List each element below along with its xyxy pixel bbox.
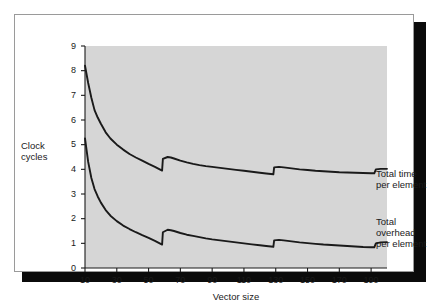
x-tick-label: 70 [168, 276, 192, 285]
series-label-line: overhead [376, 227, 442, 238]
x-tick-label: 10 [73, 276, 97, 285]
figure-container: 0123456789 1030507090110130150170190 Clo… [0, 0, 448, 306]
x-tick-label: 170 [327, 276, 351, 285]
figure-card: 0123456789 1030507090110130150170190 Clo… [14, 14, 414, 272]
series-label-line: Total [376, 216, 442, 227]
y-tick-label: 6 [60, 116, 76, 125]
y-tick-label: 8 [60, 66, 76, 75]
x-tick-label: 130 [264, 276, 288, 285]
axis-ticks [81, 46, 371, 272]
x-tick-label: 30 [105, 276, 129, 285]
series-label-line: Total time [376, 168, 442, 179]
series-label-total-time: Total timeper element [376, 168, 442, 190]
y-tick-label: 3 [60, 190, 76, 199]
y-tick-label: 7 [60, 91, 76, 100]
y-tick-label: 0 [60, 264, 76, 273]
x-tick-label: 50 [137, 276, 161, 285]
y-tick-label: 9 [60, 42, 76, 51]
y-tick-label: 4 [60, 165, 76, 174]
y-axis-label-line: cycles [21, 151, 67, 162]
series-line-total-time [85, 66, 387, 175]
x-tick-label: 90 [200, 276, 224, 285]
y-axis-label: Clockcycles [21, 140, 67, 162]
x-axis-label: Vector size [85, 291, 387, 302]
series-label-line: per element [376, 238, 442, 249]
x-tick-label: 190 [359, 276, 383, 285]
y-tick-label: 1 [60, 239, 76, 248]
x-tick-label: 150 [296, 276, 320, 285]
y-tick-label: 2 [60, 214, 76, 223]
x-tick-label: 110 [232, 276, 256, 285]
y-axis-label-line: Clock [21, 140, 67, 151]
series-label-total-overhead: Totaloverheadper element [376, 216, 442, 249]
series-label-line: per element [376, 179, 442, 190]
